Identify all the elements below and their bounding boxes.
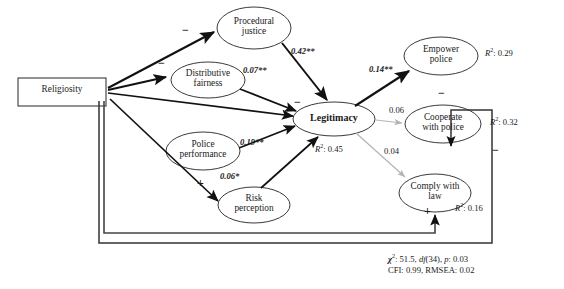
node-label-cooperate-with-police: Cooperate with police bbox=[403, 113, 483, 133]
node-label-line1: Risk bbox=[245, 193, 262, 203]
r-squared-value: 0.45 bbox=[328, 144, 343, 154]
node-label-distributive-fairness: Distributive fairness bbox=[168, 69, 248, 89]
r-squared-comply-with-law: R2: 0.16 bbox=[455, 202, 483, 213]
node-label-legitimacy: Legitimacy bbox=[294, 113, 374, 124]
node-label-line1: Empower bbox=[423, 44, 459, 54]
fit-statistics-line-1: χ2: 51.5, df(34), p: 0.03 bbox=[388, 253, 474, 265]
fit-statistics: χ2: 51.5, df(34), p: 0.03 CFI: 0.99, RMS… bbox=[388, 253, 474, 275]
node-label-police-performance: Police performance bbox=[163, 140, 243, 160]
path-legitimacy-to-cooperate-with-police bbox=[376, 120, 402, 123]
node-label-religiosity: Religiosity bbox=[18, 85, 106, 95]
path-label-legitimacy-to-cooperate-with-police: 0.06 bbox=[389, 106, 404, 115]
sign-label-religiosity-to-procedural-justice: − bbox=[182, 24, 189, 37]
fit-statistics-line-2: CFI: 0.99, RMSEA: 0.02 bbox=[388, 265, 474, 276]
r-squared-cooperate-with-police: R2: 0.32 bbox=[490, 116, 518, 127]
r-squared-legitimacy: R2: 0.45 bbox=[315, 143, 343, 154]
path-label-legitimacy-to-empower-police: 0.14** bbox=[369, 65, 393, 74]
df-value: (34), bbox=[426, 254, 445, 264]
node-label-line2: with police bbox=[422, 122, 464, 132]
r-squared-empower-police: R2: 0.29 bbox=[485, 47, 513, 58]
path-distributive-fairness-to-legitimacy bbox=[240, 89, 296, 111]
node-label-risk-perception: Risk perception bbox=[214, 194, 294, 214]
chi-square-value: : 51.5, bbox=[395, 254, 419, 264]
sign-label-religiosity-to-cooperate-with-police: − bbox=[438, 87, 445, 100]
node-label-line2: law bbox=[428, 191, 441, 201]
node-label-line1: Comply with bbox=[411, 181, 460, 191]
node-label-line2: perception bbox=[234, 203, 273, 213]
path-legitimacy-to-empower-police bbox=[355, 71, 409, 106]
path-label-legitimacy-to-comply-with-law: 0.04 bbox=[384, 147, 399, 156]
path-label-police-performance-to-legitimacy: 0.19** bbox=[240, 138, 264, 147]
node-label-line1: Cooperate bbox=[424, 112, 462, 122]
r-squared-value: 0.16 bbox=[468, 203, 483, 213]
sign-label-cooperate-vertical-path: − bbox=[492, 144, 499, 157]
node-label-line2: justice bbox=[242, 26, 266, 36]
df-symbol: df bbox=[419, 254, 426, 264]
node-label-line2: performance bbox=[180, 149, 227, 159]
path-label-distributive-fairness-to-legitimacy: 0.07** bbox=[243, 66, 267, 75]
node-label-line2: fairness bbox=[194, 78, 223, 88]
node-label-line1: Distributive bbox=[186, 68, 230, 78]
path-diagram-canvas bbox=[0, 0, 564, 289]
node-label-line1: Police bbox=[191, 139, 214, 149]
node-label-procedural-justice: Procedural justice bbox=[214, 17, 294, 37]
sign-label-religiosity-to-legitimacy: − bbox=[294, 96, 301, 109]
node-label-empower-police: Empower police bbox=[401, 45, 481, 65]
node-label-line2: police bbox=[430, 54, 453, 64]
path-label-procedural-justice-to-legitimacy: 0.42** bbox=[291, 47, 315, 56]
node-label-comply-with-law: Comply with law bbox=[393, 182, 477, 202]
path-risk-perception-to-legitimacy bbox=[261, 137, 318, 188]
path-label-risk-perception-to-legitimacy: 0.06* bbox=[220, 172, 239, 181]
sign-label-religiosity-to-distributive-fairness: − bbox=[158, 57, 165, 70]
node-label-line1: Procedural bbox=[234, 16, 274, 26]
r-squared-value: 0.32 bbox=[503, 117, 518, 127]
p-value: : 0.03 bbox=[448, 254, 468, 264]
r-squared-value: 0.29 bbox=[498, 48, 513, 58]
sign-label-religiosity-to-comply-with-law: + bbox=[424, 205, 431, 218]
sign-label-religiosity-to-risk-perception: + bbox=[197, 177, 204, 190]
